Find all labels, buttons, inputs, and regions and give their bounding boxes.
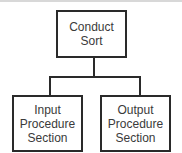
child-box-label: Output Procedure Section	[108, 103, 163, 145]
connector-root-vertical	[93, 57, 95, 77]
child-box-input-procedure-section: Input Procedure Section	[12, 95, 83, 152]
top-border	[0, 0, 182, 2]
root-box-label: Conduct Sort	[69, 20, 114, 48]
root-box-conduct-sort: Conduct Sort	[56, 10, 127, 58]
connector-right-vertical	[139, 76, 141, 96]
child-box-label: Input Procedure Section	[20, 103, 75, 145]
connector-horizontal	[49, 76, 141, 78]
child-box-output-procedure-section: Output Procedure Section	[100, 95, 171, 152]
connector-left-vertical	[49, 76, 51, 96]
